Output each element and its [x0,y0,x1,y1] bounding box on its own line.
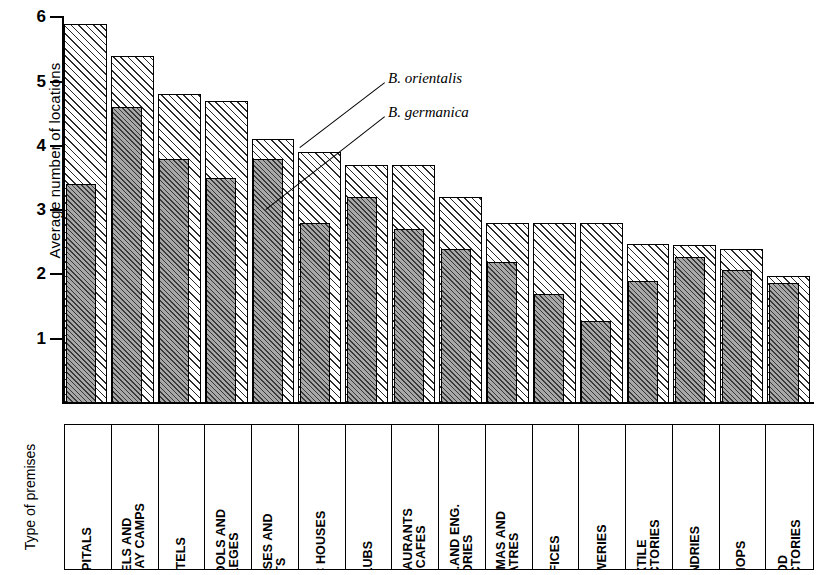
category-cell: OFFICES [533,425,580,569]
y-axis-tick-label-4: 4 [24,137,46,154]
category-cell: SCHOOLS AND COLLEGES [205,425,252,569]
category-cell: LAUNDRIES [673,425,720,569]
y-axis-tick-2 [50,273,62,275]
category-cell: FOOD FACTORIES [766,425,813,569]
bar-group [111,14,154,403]
y-axis-tick-label-2: 2 [24,265,46,282]
category-cell: SHOPS [720,425,767,569]
bar-germanica [534,294,564,403]
bar-germanica [581,321,611,403]
bar-germanica [206,178,236,403]
category-table: HOSPITALSHOSTELS AND HOLIDAY CAMPSHOTELS… [64,424,814,570]
category-label: HOTELS [175,537,188,569]
bar-group [627,14,670,403]
bar-germanica [159,159,189,403]
bar-group [580,14,623,403]
y-axis-tick-6 [50,16,62,18]
bar-germanica [66,184,96,403]
y-axis-tick-5 [50,81,62,83]
category-cell: RESTAURANTS AND CAFES [392,425,439,569]
x-axis-table-header-label: Type of premises [22,444,38,551]
category-cell: BREWERIES [579,425,626,569]
category-cell: PUBLIC HOUSES [299,425,346,569]
category-label: PUBLIC HOUSES [315,510,328,569]
bar-chart-figure: Average number of locations 123456 B. or… [0,0,824,575]
y-axis-tick-4 [50,145,62,147]
category-label: RESTAURANTS AND CAFES [402,508,429,569]
bar-germanica [300,223,330,403]
bar-group [64,14,107,403]
category-label: FOOD FACTORIES [776,520,803,569]
category-cell: TEXTILE FACTORIES [626,425,673,569]
bar-germanica [487,262,517,403]
category-cell: CHEM.AND ENG. FACTORIES [439,425,486,569]
category-label: HOSPITALS [81,527,94,569]
annotation-b-orientalis: B. orientalis [388,70,462,87]
category-cell: HOSPITALS [65,425,112,569]
category-cell: HOSTELS AND HOLIDAY CAMPS [112,425,159,569]
bar-germanica [769,283,799,403]
category-label: CLUBS [362,541,375,569]
bar-germanica [394,229,424,403]
bar-group [486,14,529,403]
category-label: BREWERIES [595,524,608,569]
x-axis-baseline [62,402,814,404]
y-axis-tick-label-5: 5 [24,73,46,90]
y-axis-label: Average number of locations [46,11,63,311]
bar-germanica [347,197,377,403]
bar-group [158,14,201,403]
category-label: LAUNDRIES [689,525,702,569]
category-cell: HOTELS [159,425,206,569]
category-label: CINEMAS AND THEATRES [495,511,522,569]
y-axis-tick-label-1: 1 [24,330,46,347]
annotation-b-germanica: B. germanica [388,104,469,121]
category-cell: CLUBS [346,425,393,569]
category-label: OFFICES [549,535,562,569]
bar-group [345,14,388,403]
bar-group [205,14,248,403]
category-label: SCHOOLS AND COLLEGES [215,509,242,569]
bar-germanica [675,257,705,403]
category-label: TEXTILE FACTORIES [636,520,663,569]
category-label: HOSTELS AND HOLIDAY CAMPS [121,503,148,569]
bar-germanica [253,159,283,403]
x-axis-table-header: Type of premises [0,424,60,570]
bar-germanica [112,107,142,403]
bar-germanica [722,270,752,403]
y-axis-tick-label-6: 6 [24,8,46,25]
bar-group [252,14,295,403]
bar-group [673,14,716,403]
bar-germanica [441,249,471,403]
bar-germanica [628,281,658,403]
bar-group [298,14,341,403]
y-axis-tick-3 [50,209,62,211]
bar-group [720,14,763,403]
category-cell: HOUSES AND FLATS [252,425,299,569]
bar-group [533,14,576,403]
y-axis-tick-label-3: 3 [24,201,46,218]
bar-group [767,14,810,403]
category-label: HOUSES AND FLATS [262,514,289,569]
category-label: CHEM.AND ENG. FACTORIES [449,504,476,569]
y-axis-tick-1 [50,338,62,340]
category-label: SHOPS [736,540,749,569]
category-cell: CINEMAS AND THEATRES [486,425,533,569]
